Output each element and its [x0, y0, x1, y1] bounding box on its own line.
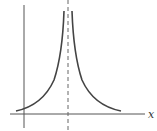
curve-right-branch: [72, 11, 121, 111]
x-axis-label: x: [148, 108, 155, 121]
curve-left-branch: [16, 11, 64, 111]
function-graph: x: [0, 0, 157, 131]
